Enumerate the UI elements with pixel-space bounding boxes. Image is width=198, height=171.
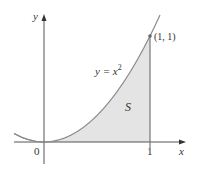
y-axis-label: y (32, 10, 38, 22)
region-s (44, 36, 150, 142)
curve-label-text: y = x (94, 65, 118, 77)
curve-label-exponent: 2 (118, 63, 122, 72)
origin-label: 0 (34, 145, 40, 157)
x-axis-arrow-icon (179, 140, 186, 145)
curve-label: y = x2 (94, 63, 122, 77)
x-tick-label-1: 1 (147, 145, 153, 157)
point-label: (1, 1) (154, 31, 176, 43)
x-axis-label: x (178, 145, 184, 157)
area-under-parabola-figure: y x 0 1 (1, 1) S y = x2 (0, 0, 198, 171)
point-1-1 (148, 34, 152, 38)
region-label: S (125, 100, 131, 114)
y-axis-arrow-icon (42, 14, 47, 21)
parabola-left (14, 134, 44, 143)
plot-canvas: y x 0 1 (1, 1) S y = x2 (0, 0, 198, 171)
